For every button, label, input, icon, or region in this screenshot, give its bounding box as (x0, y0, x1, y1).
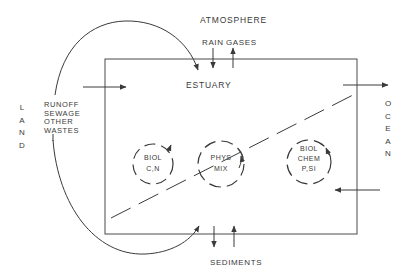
cycle-line: P,SI (292, 164, 326, 174)
phys-mix-text: PHYS MIX (204, 152, 238, 174)
cycle-line: MIX (204, 163, 238, 174)
ocean-letter: C (383, 111, 393, 124)
biol-cn-text: BIOL C,N (136, 152, 170, 174)
ocean-letter: O (383, 98, 393, 111)
cycle-line: BIOL (136, 152, 170, 163)
ocean-letter: N (383, 148, 393, 161)
rain-label: RAIN (202, 39, 224, 47)
land-letter: N (17, 127, 27, 140)
biol-cn-cycle-arrow-icon (168, 145, 171, 152)
cycle-line: CHEM (292, 154, 326, 164)
land-to-estuary-bottom-curve (53, 140, 199, 254)
land-to-estuary-top-curve (55, 21, 198, 95)
land-label: L A N D (17, 102, 27, 152)
cycle-line: BIOL (292, 144, 326, 154)
cycle-line: C,N (136, 163, 170, 174)
land-letter: L (17, 102, 27, 115)
ocean-letter: A (383, 136, 393, 149)
cycle-line: PHYS (204, 152, 238, 163)
ocean-letter: E (383, 123, 393, 136)
sediments-label: SEDIMENTS (210, 259, 262, 267)
estuary-label: ESTUARY (186, 81, 232, 90)
phys-mix-cycle-arrow-icon (239, 156, 241, 168)
biol-chem-text: BIOL CHEM P,SI (292, 144, 326, 174)
land-letter: A (17, 115, 27, 128)
atmosphere-label: ATMOSPHERE (200, 16, 267, 25)
ocean-label: O C E A N (383, 98, 393, 161)
land-input-item: WASTES (44, 127, 80, 136)
land-inputs-list: RUNOFF SEWAGE OTHER WASTES (44, 101, 80, 135)
gases-label: GASES (226, 39, 257, 47)
land-letter: D (17, 140, 27, 153)
